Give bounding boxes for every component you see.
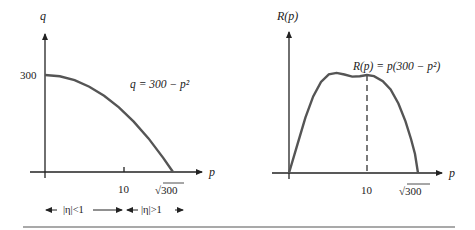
- right-x-tick-10: 10: [361, 184, 373, 196]
- right-y-axis-label: R(p): [276, 9, 298, 23]
- right-chart: R(p) p 10 √300 R(p) = p(300 − p²): [272, 9, 455, 197]
- left-x-tick-sqrt300: √300: [155, 184, 178, 196]
- left-y-axis-label: q: [40, 9, 46, 23]
- left-x-tick-10: 10: [118, 183, 130, 195]
- left-x-axis-label: p: [208, 165, 215, 179]
- inelastic-region-label: |η|<1: [63, 204, 84, 215]
- figure-canvas: q 300 p 10 √300 q = 300 − p² |η|<1 |η|>1…: [0, 0, 475, 230]
- left-chart: q 300 p 10 √300 q = 300 − p² |η|<1 |η|>1: [20, 9, 215, 215]
- right-x-axis-label: p: [448, 166, 455, 180]
- left-y-tick-300: 300: [20, 69, 37, 81]
- revenue-curve: [289, 73, 418, 173]
- elastic-region-label: |η|>1: [141, 204, 162, 215]
- revenue-curve-label: R(p) = p(300 − p²): [352, 60, 440, 73]
- right-x-tick-sqrt300: √300: [399, 185, 422, 197]
- elasticity-regions: |η|<1 |η|>1: [46, 204, 183, 215]
- demand-curve-label: q = 300 − p²: [130, 78, 190, 91]
